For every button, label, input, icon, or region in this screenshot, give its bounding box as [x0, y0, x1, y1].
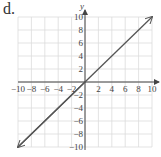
- y-tick-label: −4: [73, 103, 83, 113]
- x-tick-label: −4: [53, 84, 63, 94]
- y-tick-label: −10: [69, 142, 84, 152]
- y-tick-label: 4: [79, 51, 84, 61]
- x-tick-label: −8: [27, 84, 37, 94]
- x-tick-label: 4: [110, 84, 115, 94]
- x-tick-label: −6: [40, 84, 50, 94]
- y-axis-label: y: [79, 1, 84, 11]
- x-tick-label: 2: [96, 84, 101, 94]
- y-tick-label: 8: [79, 25, 84, 35]
- tick-labels: y−10−8−6−4−2246810108642−2−4−6−8−10: [11, 1, 157, 152]
- y-tick-label: −8: [73, 129, 83, 139]
- x-tick-label: 8: [136, 84, 141, 94]
- x-tick-label: 6: [123, 84, 128, 94]
- coordinate-plane: y−10−8−6−4−2246810108642−2−4−6−8−10: [0, 0, 161, 157]
- y-tick-label: 10: [74, 12, 84, 22]
- y-tick-label: −6: [73, 116, 83, 126]
- y-tick-label: 6: [79, 38, 84, 48]
- x-tick-label: −10: [11, 84, 26, 94]
- x-tick-label: 10: [148, 84, 158, 94]
- y-tick-label: 2: [79, 64, 84, 74]
